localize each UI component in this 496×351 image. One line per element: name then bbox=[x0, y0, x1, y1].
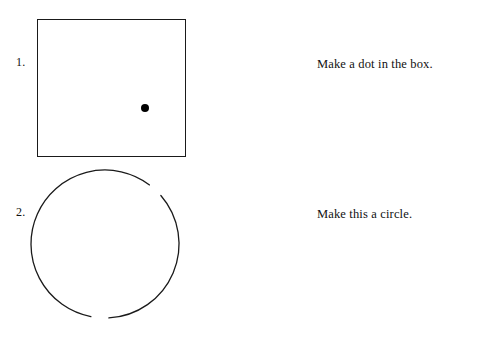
dot-mark bbox=[141, 104, 149, 112]
item-number-1: 1. bbox=[16, 56, 25, 68]
instruction-text-1: Make a dot in the box. bbox=[317, 58, 433, 71]
square-figure[interactable] bbox=[37, 19, 186, 157]
instruction-text-2: Make this a circle. bbox=[317, 208, 412, 221]
broken-circle-figure[interactable] bbox=[26, 165, 184, 323]
item-number-2: 2. bbox=[16, 206, 25, 218]
broken-circle-svg bbox=[26, 165, 184, 323]
worksheet-page: 1. Make a dot in the box. 2. Make this a… bbox=[0, 0, 496, 351]
circle-arc-minor bbox=[109, 195, 179, 317]
circle-arc-major bbox=[31, 170, 150, 317]
